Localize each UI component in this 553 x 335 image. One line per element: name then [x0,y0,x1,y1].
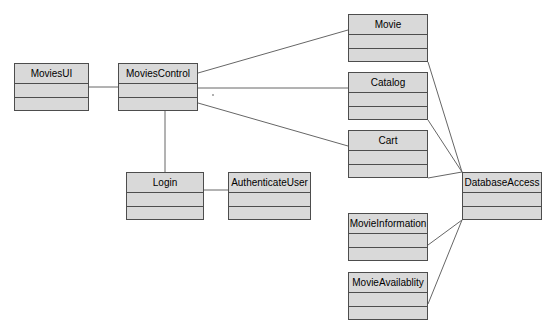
uml-class-name-movies-ui: MoviesUI [15,64,88,84]
uml-attributes-compartment-login [127,193,203,207]
uml-attributes-compartment-movies-control [119,84,197,98]
uml-class-name-movie: Movie [349,15,427,35]
association-moviescontrol-cart [198,103,348,146]
association-moviescontrol-movie [198,30,348,73]
association-catalog-databaseaccess [428,120,462,172]
uml-operations-compartment-movies-ui [15,98,88,111]
uml-class-movie[interactable]: Movie [348,14,428,62]
uml-attributes-compartment-movies-ui [15,84,88,98]
uml-class-authenticate-user[interactable]: AuthenticateUser [228,172,311,220]
stray-dot-artifact [212,94,214,96]
uml-operations-compartment-authenticate-user [229,207,310,220]
uml-class-name-cart: Cart [349,131,427,151]
uml-class-name-login: Login [127,173,203,193]
association-edge-layer [0,0,553,335]
association-movieinformation-dbaccess [428,220,462,245]
association-movie-databaseaccess [428,62,462,172]
uml-operations-compartment-movie-information [349,248,427,261]
uml-class-movies-ui[interactable]: MoviesUI [14,63,89,111]
uml-class-diagram-canvas: MoviesUIMoviesControlLoginAuthenticateUs… [0,0,553,335]
uml-operations-compartment-catalog [349,107,427,120]
uml-class-login[interactable]: Login [126,172,204,220]
association-movieavailablity-dbaccess [428,220,462,304]
uml-class-name-catalog: Catalog [349,73,427,93]
uml-operations-compartment-movie-availablity [349,307,427,320]
uml-attributes-compartment-cart [349,151,427,165]
uml-attributes-compartment-movie [349,35,427,49]
uml-class-movies-control[interactable]: MoviesControl [118,63,198,111]
uml-operations-compartment-database-access [463,207,541,220]
uml-class-cart[interactable]: Cart [348,130,428,178]
uml-operations-compartment-login [127,207,203,220]
uml-attributes-compartment-authenticate-user [229,193,310,207]
uml-class-name-database-access: DatabaseAccess [463,173,541,193]
uml-attributes-compartment-database-access [463,193,541,207]
uml-operations-compartment-movies-control [119,98,197,111]
association-cart-databaseaccess [428,172,462,178]
uml-class-database-access[interactable]: DatabaseAccess [462,172,542,220]
uml-class-name-authenticate-user: AuthenticateUser [229,173,310,193]
uml-attributes-compartment-catalog [349,93,427,107]
uml-operations-compartment-cart [349,165,427,178]
uml-class-catalog[interactable]: Catalog [348,72,428,120]
uml-class-movie-information[interactable]: MovieInformation [348,213,428,261]
uml-class-name-movies-control: MoviesControl [119,64,197,84]
uml-class-movie-availablity[interactable]: MovieAvailablity [348,272,428,320]
uml-attributes-compartment-movie-availablity [349,293,427,307]
uml-class-name-movie-information: MovieInformation [349,214,427,234]
uml-class-name-movie-availablity: MovieAvailablity [349,273,427,293]
uml-operations-compartment-movie [349,49,427,62]
uml-attributes-compartment-movie-information [349,234,427,248]
